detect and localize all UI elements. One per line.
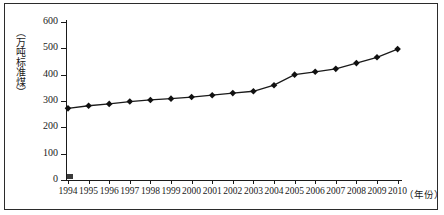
x-tick-label: 2004 (265, 186, 284, 196)
chart-figure: （万吨标准煤） 0100200300400500600 199419951996… (0, 0, 444, 215)
x-tick (89, 180, 90, 184)
y-tick: 0 (61, 180, 66, 181)
y-tick-label: 600 (43, 15, 58, 26)
series-path (68, 49, 398, 108)
x-tick-label: 2007 (326, 186, 345, 196)
x-tick (356, 180, 357, 184)
y-tick-label: 500 (43, 41, 58, 52)
x-tick (130, 180, 131, 184)
data-point-marker (127, 98, 134, 105)
x-tick-label: 2002 (223, 186, 242, 196)
data-point-marker (394, 46, 401, 53)
x-tick (377, 180, 378, 184)
x-tick-label: 2000 (182, 186, 201, 196)
x-tick-label: 1995 (79, 186, 98, 196)
x-tick (171, 180, 172, 184)
x-tick (109, 180, 110, 184)
series-markers (65, 46, 401, 112)
x-tick-label: 2003 (244, 186, 263, 196)
x-tick-label: 1998 (141, 186, 160, 196)
x-tick (274, 180, 275, 184)
x-tick (233, 180, 234, 184)
x-tick-label: 2008 (347, 186, 366, 196)
origin-marker (67, 174, 73, 179)
data-point-marker (106, 101, 113, 108)
x-axis-caption: （年份） (404, 187, 444, 201)
x-tick-label: 1999 (162, 186, 181, 196)
data-point-marker (147, 97, 154, 104)
x-tick-label: 1994 (59, 186, 78, 196)
x-tick-label: 2001 (203, 186, 222, 196)
x-tick (315, 180, 316, 184)
x-tick (68, 180, 69, 184)
x-tick-label: 1996 (100, 186, 119, 196)
x-axis-line (66, 180, 402, 181)
data-point-marker (374, 54, 381, 61)
data-point-marker (312, 68, 319, 75)
x-tick (398, 180, 399, 184)
data-point-marker (85, 102, 92, 109)
series-line-1 (66, 22, 402, 180)
plot-area: 0100200300400500600 19941995199619971998… (66, 22, 402, 180)
x-tick (192, 180, 193, 184)
y-tick-label: 300 (43, 94, 58, 105)
y-axis-caption: （万吨标准煤） (8, 14, 24, 110)
x-tick-label: 1997 (120, 186, 139, 196)
data-point-marker (230, 90, 237, 97)
x-tick-label: 2005 (285, 186, 304, 196)
y-tick-label: 200 (43, 120, 58, 131)
data-point-marker (168, 95, 175, 102)
x-tick-label: 2009 (368, 186, 387, 196)
x-tick (150, 180, 151, 184)
x-tick (212, 180, 213, 184)
data-point-marker (333, 66, 340, 73)
data-point-marker (209, 92, 216, 99)
data-point-marker (250, 88, 257, 95)
y-tick-label: 100 (43, 147, 58, 158)
x-tick (295, 180, 296, 184)
x-tick (253, 180, 254, 184)
x-tick-label: 2006 (306, 186, 325, 196)
x-tick (336, 180, 337, 184)
data-point-marker (291, 71, 298, 78)
data-point-marker (353, 60, 360, 67)
y-tick-label: 400 (43, 68, 58, 79)
data-point-marker (65, 105, 72, 112)
y-tick-label: 0 (53, 173, 58, 184)
data-point-marker (271, 82, 278, 89)
data-point-marker (188, 94, 195, 101)
